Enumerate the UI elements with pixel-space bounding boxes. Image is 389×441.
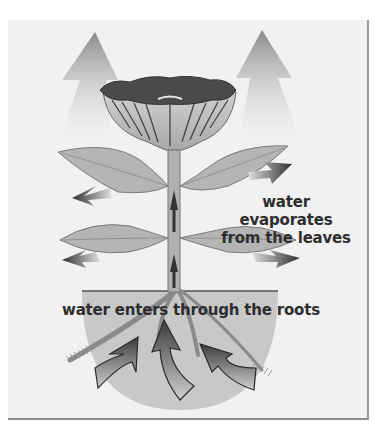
flower (100, 76, 236, 150)
evaporation-label: water evaporates from the leaves (216, 193, 356, 247)
upward-vapor-arrow-right (236, 30, 300, 140)
evaporation-label-line-1: water evaporates (216, 193, 356, 229)
roots-label: water enters through the roots (62, 301, 320, 319)
evaporation-label-line-2: from the leaves (216, 229, 356, 247)
